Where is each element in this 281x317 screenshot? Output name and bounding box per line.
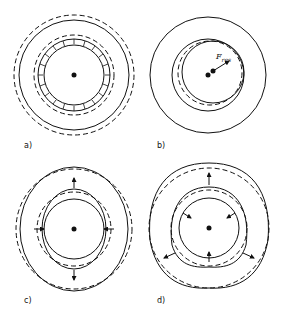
center-dot [72,73,77,78]
panel-a [14,15,134,135]
panel-label-c: c) [24,296,32,305]
panel-c [16,167,132,291]
figure-canvas [0,0,281,317]
panel-label-b: b) [157,141,165,150]
force-subscript: res [222,56,232,63]
panel-d [149,163,269,288]
panel-b [150,17,266,133]
panel-label-a: a) [24,141,32,150]
panel-label-d: d) [157,296,165,305]
force-label: Fres [216,52,231,63]
